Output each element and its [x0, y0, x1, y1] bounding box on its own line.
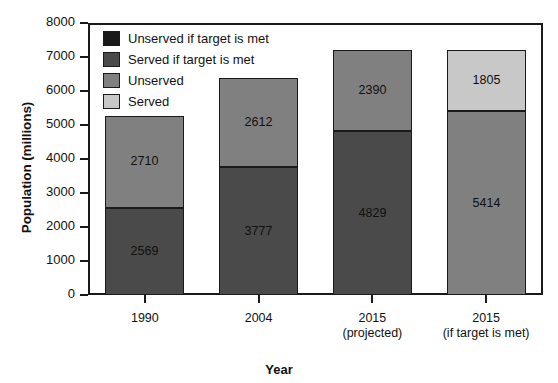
- bar-value-label: 4829: [359, 207, 387, 220]
- legend-label: Unserved: [128, 73, 184, 88]
- legend-label: Served if target is met: [128, 52, 254, 67]
- bar-value-label: 2569: [131, 245, 159, 258]
- bar-value-label: 1805: [473, 74, 501, 87]
- y-tick-label: 3000: [46, 184, 75, 199]
- x-tick-label-year: 2004: [245, 311, 273, 325]
- legend-label: Unserved if target is met: [128, 31, 269, 46]
- legend-item: Unserved if target is met: [103, 29, 269, 48]
- y-tick-mark: [80, 192, 88, 194]
- legend-swatch-icon: [103, 31, 120, 46]
- legend-swatch-icon: [103, 94, 120, 109]
- x-tick-label-year: 1990: [131, 311, 159, 325]
- bar-segment: 3777: [219, 167, 298, 295]
- y-tick-mark: [80, 90, 88, 92]
- y-tick-label: 2000: [46, 218, 75, 233]
- y-tick-label: 4000: [46, 150, 75, 165]
- x-tick-label-sublabel: (if target is met): [416, 326, 556, 341]
- bar-segment: 2569: [105, 208, 184, 295]
- x-tick-label-year: 2015: [472, 311, 500, 325]
- y-tick-label: 5000: [46, 116, 75, 131]
- x-axis-title: Year: [0, 362, 558, 377]
- legend-item: Served if target is met: [103, 50, 269, 69]
- y-tick-label: 0: [68, 286, 75, 301]
- y-tick-mark: [80, 226, 88, 228]
- bar-value-label: 2710: [131, 155, 159, 168]
- bar-value-label: 5414: [473, 197, 501, 210]
- x-tick-label: 2015(if target is met): [416, 311, 556, 341]
- y-tick-mark: [80, 294, 88, 296]
- legend-item: Unserved: [103, 71, 269, 90]
- x-tick-mark: [258, 295, 260, 303]
- x-tick-mark: [371, 295, 373, 303]
- y-tick-label: 1000: [46, 252, 75, 267]
- y-tick-mark: [80, 124, 88, 126]
- y-tick-mark: [80, 56, 88, 58]
- bar-value-label: 2390: [359, 84, 387, 97]
- bar-chart: Population (millions) 010002000300040005…: [0, 0, 558, 383]
- y-tick-label: 7000: [46, 48, 75, 63]
- bar-segment: 1805: [447, 50, 526, 111]
- y-tick-mark: [80, 158, 88, 160]
- bar-segment: 4829: [333, 131, 412, 295]
- bar-segment: 5414: [447, 111, 526, 295]
- x-tick-mark: [485, 295, 487, 303]
- y-tick-label: 8000: [46, 14, 75, 29]
- legend: Unserved if target is metServed if targe…: [103, 29, 269, 111]
- legend-item: Served: [103, 92, 269, 111]
- y-tick-label: 6000: [46, 82, 75, 97]
- bar-value-label: 3777: [245, 225, 273, 238]
- legend-swatch-icon: [103, 52, 120, 67]
- x-tick-mark: [144, 295, 146, 303]
- bar-segment: 2390: [333, 50, 412, 131]
- y-tick-mark: [80, 22, 88, 24]
- bar-value-label: 2612: [245, 116, 273, 129]
- bar-segment: 2710: [105, 116, 184, 208]
- legend-swatch-icon: [103, 73, 120, 88]
- x-tick-label-year: 2015: [358, 311, 386, 325]
- y-axis-title: Population (millions): [19, 58, 34, 278]
- legend-label: Served: [128, 94, 169, 109]
- y-tick-mark: [80, 260, 88, 262]
